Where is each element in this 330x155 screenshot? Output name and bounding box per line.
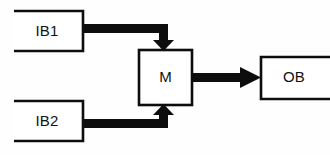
edge-ib1-m-horizontal-segment xyxy=(82,24,168,33)
diagram-svg: IB1 IB2 M OB xyxy=(0,0,330,155)
node-ib1-label: IB1 xyxy=(35,22,58,39)
node-m-label: M xyxy=(159,68,172,85)
diagram-canvas: IB1 IB2 M OB xyxy=(0,0,330,155)
edge-ib1-m-vertical-segment xyxy=(159,24,168,42)
edge-m-ob xyxy=(192,67,261,88)
node-m[interactable]: M xyxy=(139,50,192,105)
edge-ib2-m-vertical-segment xyxy=(159,113,168,128)
edge-ib2-m-horizontal-segment xyxy=(82,119,168,128)
node-ib2[interactable]: IB2 xyxy=(14,101,83,141)
edge-m-ob-horizontal-segment xyxy=(192,73,244,82)
edge-ib1-m xyxy=(82,24,174,51)
node-ib1[interactable]: IB1 xyxy=(14,11,83,51)
node-ob-label: OB xyxy=(283,68,305,85)
node-ob[interactable]: OB xyxy=(261,57,330,99)
edge-m-ob-arrowhead-right-icon xyxy=(240,67,261,88)
edge-ib2-m xyxy=(82,104,174,128)
node-ib2-label: IB2 xyxy=(35,112,58,129)
